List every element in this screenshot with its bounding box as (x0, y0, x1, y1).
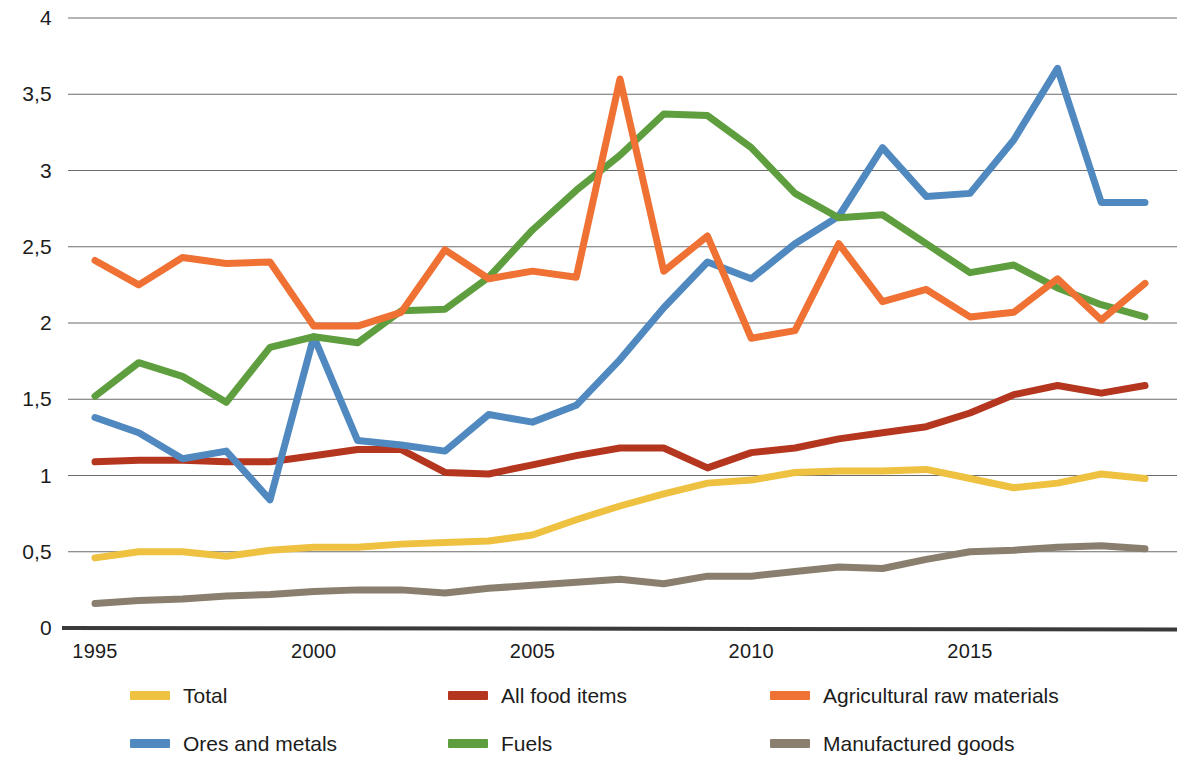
legend-color-swatch-icon (130, 691, 170, 700)
x-axis-tick-label: 1995 (50, 641, 140, 661)
series-lines (95, 68, 1145, 603)
legend-item-label: All food items (501, 685, 627, 706)
y-axis-tick-label: 0 (0, 617, 52, 638)
legend-item[interactable]: All food items (448, 682, 627, 708)
x-axis-tick-label: 2015 (925, 641, 1015, 661)
legend-item-label: Fuels (501, 733, 552, 754)
x-axis-tick-label: 2000 (269, 641, 359, 661)
y-axis-tick-label: 3,5 (0, 83, 52, 104)
series-line-ores-and-metals (95, 68, 1145, 500)
legend-item[interactable]: Total (130, 682, 227, 708)
line-chart: 00,511,522,533,54 19952000200520102015 T… (0, 0, 1192, 773)
legend-color-swatch-icon (770, 739, 810, 748)
legend-item-label: Agricultural raw materials (823, 685, 1059, 706)
series-line-agricultural-raw-materials (95, 79, 1145, 338)
y-axis-tick-label: 2,5 (0, 236, 52, 257)
legend-color-swatch-icon (448, 739, 488, 748)
y-axis-tick-label: 3 (0, 160, 52, 181)
y-axis-tick-label: 1,5 (0, 388, 52, 409)
legend-item-label: Manufactured goods (823, 733, 1014, 754)
y-axis-tick-label: 2 (0, 312, 52, 333)
x-axis-tick-label: 2005 (488, 641, 578, 661)
y-axis-tick-label: 1 (0, 465, 52, 486)
legend-item-label: Ores and metals (183, 733, 337, 754)
x-axis-tick-label: 2010 (706, 641, 796, 661)
chart-legend: TotalAll food itemsAgricultural raw mate… (130, 682, 1180, 764)
legend-color-swatch-icon (448, 691, 488, 700)
legend-color-swatch-icon (770, 691, 810, 700)
x-axis-baseline (62, 628, 1177, 630)
legend-item[interactable]: Manufactured goods (770, 730, 1014, 756)
y-axis-tick-label: 4 (0, 7, 52, 28)
legend-item[interactable]: Agricultural raw materials (770, 682, 1059, 708)
legend-color-swatch-icon (130, 739, 170, 748)
legend-item[interactable]: Ores and metals (130, 730, 337, 756)
legend-item-label: Total (183, 685, 227, 706)
y-axis-tick-label: 0,5 (0, 541, 52, 562)
axis-baseline (62, 628, 1177, 630)
legend-item[interactable]: Fuels (448, 730, 552, 756)
